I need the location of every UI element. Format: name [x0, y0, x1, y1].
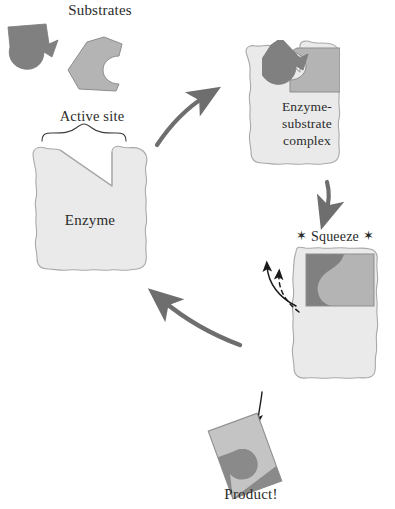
free-substrates-group [8, 24, 122, 91]
squeeze-stage-group [267, 247, 378, 378]
merged-product-in-site [306, 254, 374, 306]
complex-line-2: substrate [252, 115, 362, 132]
active-site-brace [42, 124, 126, 141]
label-squeeze: ✶ Squeeze ✶ [276, 228, 394, 245]
label-enzyme-substrate-complex: Enzyme- substrate complex [252, 98, 362, 149]
arrow-squeeze-solid [267, 266, 296, 306]
squeeze-text: Squeeze [311, 229, 359, 244]
label-active-site: Active site [12, 108, 172, 125]
label-enzyme: Enzyme [20, 212, 160, 229]
label-substrates: Substrates [0, 2, 200, 19]
complex-line-3: complex [252, 132, 362, 149]
diagram-canvas: Substrates Active site Enzyme Enzyme- su… [0, 0, 395, 509]
sparkle-icon-right: ✶ [363, 228, 374, 243]
sparkle-icon-left: ✶ [296, 228, 307, 243]
enzyme-cycle-illustration [0, 0, 395, 509]
arrow-to-squeeze [326, 182, 329, 213]
dark-substrate-shape [8, 24, 58, 69]
enzyme-body-shape [33, 146, 147, 270]
free-enzyme-group [33, 146, 147, 270]
label-product: Product! [196, 486, 306, 503]
arrow-recycle [162, 300, 240, 345]
complex-line-1: Enzyme- [252, 98, 362, 115]
light-substrate-shape [68, 37, 122, 91]
